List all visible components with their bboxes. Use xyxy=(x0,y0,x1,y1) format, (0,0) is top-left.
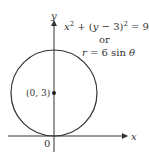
cartesian-equation: x2 + (y − 3)2 = 9 xyxy=(64,20,149,32)
center-point-label: (0, 3) xyxy=(26,88,50,98)
eq-plus: + ( xyxy=(74,21,93,32)
y-axis-label: y xyxy=(50,10,57,21)
polar-circle-diagram: y x 0 (0, 3) x2 + (y − 3)2 = 9 or r = 6 … xyxy=(0,0,149,163)
eq-theta: θ xyxy=(129,47,135,58)
eq-polar-body: = 6 sin xyxy=(87,47,129,58)
equation-connector: or xyxy=(99,34,110,45)
center-point xyxy=(52,91,56,95)
eq-minus-three: − 3) xyxy=(98,21,123,32)
origin-label: 0 xyxy=(44,138,50,149)
x-axis-label: x xyxy=(131,131,137,142)
eq-rhs: = 9 xyxy=(128,21,149,32)
polar-equation: r = 6 sin θ xyxy=(82,47,135,58)
